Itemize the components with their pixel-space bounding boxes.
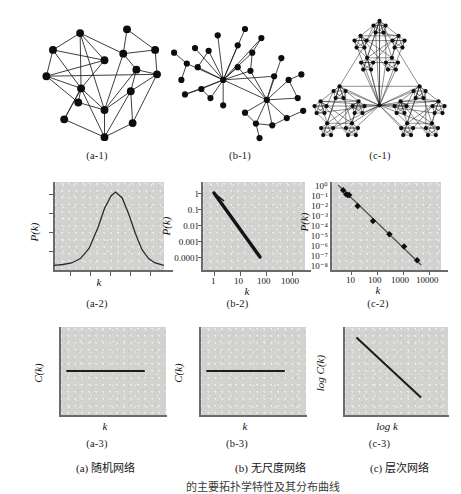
caption-b1: (b-1) [165,150,315,161]
plot-b3-xaxis [199,415,307,417]
plot-c2: P(k) 10⁰ 10⁻¹ 10⁻² 10⁻³ 10⁻⁴ 10⁻⁵ 10⁻⁶ 1… [298,180,458,295]
plot-c2-ylabel-6: 10⁻⁶ [298,241,328,251]
cropped-footer-text: 的主要拓扑学特性及其分布曲线 [0,480,461,494]
network-diagram-random [22,8,172,150]
plot-a3-ylabel: C(k) [32,351,44,395]
plot-c2-ylabel-1: 10⁻¹ [298,191,328,201]
plot-c2-ylabel-8: 10⁻⁸ [298,261,328,271]
plot-b2-xlabel: k [182,285,312,297]
plot-c2-ylabel-2: 10⁻² [298,201,328,211]
label-scale-free-network: (b) 无尺度网络 [235,459,306,475]
plot-b2-ylabel-5: 0.0001 [159,253,199,263]
network-diagram-hierarchical [305,8,455,150]
plot-c2-ylabel-4: 10⁻⁴ [298,221,328,231]
plot-c3-ylabel: log C(k) [314,343,326,403]
label-random-network: (a) 随机网络 [76,459,135,475]
caption-a3: (a-3) [22,438,172,449]
plot-a3-xaxis [59,415,167,417]
plot-c3: log C(k) log k [302,325,457,440]
plot-c2-ylabel-5: 10⁻⁵ [298,231,328,241]
plot-b2-ylabel-3: 0.01 [160,221,199,231]
caption-a2: (a-2) [22,298,172,309]
network-diagram-scale-free [165,8,315,150]
plot-b3: C(k) k [162,325,312,440]
plot-c3-xlabel: log k [322,420,452,432]
plot-b2-ylabel-2: 0.1 [160,205,199,215]
plot-a3-xlabel: k [40,420,170,432]
plot-b3-xlabel: k [180,420,310,432]
cropped-footer-label: 的主要拓扑学特性及其分布曲线 [186,480,340,494]
plot-a2: P(k) k [22,180,172,295]
plot-a3: C(k) k [22,325,172,440]
plot-a2-ylabel: P(k) [28,212,40,252]
plot-b2-ylabel-1: 1 [160,189,199,199]
caption-c1: (c-1) [305,150,455,161]
caption-c3: (c-3) [302,438,457,449]
plot-c3-xaxis [343,415,449,417]
caption-b2: (b-2) [160,298,315,309]
caption-a1: (a-1) [22,150,172,161]
plot-b2-xaxis [201,270,311,272]
plot-b2-ylabel-4: 0.001 [160,237,199,247]
plot-b2: P(k) 1 0.1 0.01 0.001 0.0001 1 10 100 10… [160,180,315,295]
plot-c2-xaxis [330,270,448,272]
caption-c2: (c-2) [298,298,458,309]
plot-b3-ylabel: C(k) [172,351,184,395]
plot-c2-ylabel-7: 10⁻⁷ [298,251,328,261]
plot-c2-ylabel-0: 10⁰ [298,181,328,191]
plot-a2-xlabel: k [34,276,164,288]
plot-c2-ylabel-3: 10⁻³ [298,211,328,221]
label-hierarchical-network: (c) 层次网络 [370,459,429,475]
caption-b3: (b-3) [162,438,312,449]
plot-c2-xlabel: k [313,284,443,296]
figure-root: (a-1) (b-1) (c-1) P(k) k (a-2) P(k) 1 0.… [0,0,461,494]
